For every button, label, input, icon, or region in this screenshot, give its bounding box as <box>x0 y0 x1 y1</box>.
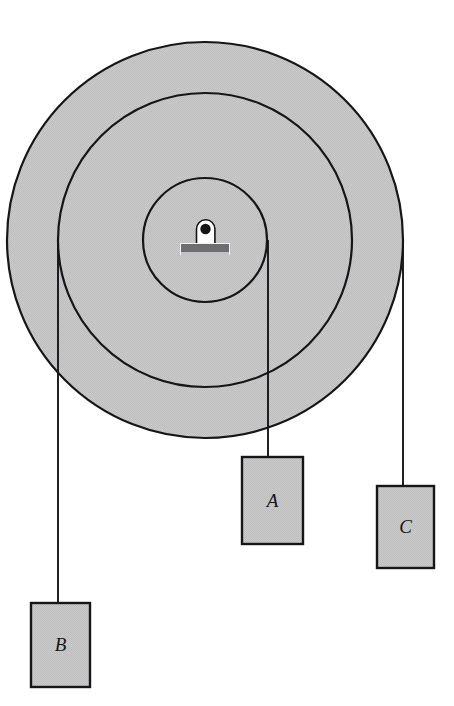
axle-base-shadow <box>181 252 229 256</box>
axle-base-plate <box>181 244 229 253</box>
diagram-canvas: A B C <box>0 0 454 706</box>
block-c: C <box>377 486 434 568</box>
hanging-blocks-group: A B C <box>31 457 434 687</box>
pulley-diagram-figure: A B C <box>0 0 454 706</box>
block-b: B <box>31 603 90 687</box>
block-c-label: C <box>399 516 412 537</box>
block-a-label: A <box>265 490 279 511</box>
block-a: A <box>242 457 303 544</box>
axle-hole <box>200 224 210 234</box>
block-b-label: B <box>55 634 67 655</box>
